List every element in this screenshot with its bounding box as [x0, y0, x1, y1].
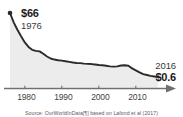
- source-caption: Source: OurWorldInData[¶] based on Lafon…: [0, 110, 183, 116]
- end-value-label: $0.6: [155, 72, 176, 83]
- x-tick-label-2000: 2000: [91, 92, 109, 102]
- x-tick-label-1980: 1980: [17, 92, 35, 102]
- x-axis-arrow-icon: [166, 85, 176, 93]
- price-decline-chart: $66 1976 2016 $0.6 1980 1990 2000 2010 S…: [0, 0, 183, 117]
- x-tick-label-2010: 2010: [128, 92, 146, 102]
- start-point-marker: [8, 11, 13, 16]
- end-year-label: 2016: [155, 61, 176, 71]
- start-value-label: $66: [21, 8, 39, 19]
- x-tick-label-1990: 1990: [54, 92, 72, 102]
- start-year-label: 1976: [21, 21, 42, 31]
